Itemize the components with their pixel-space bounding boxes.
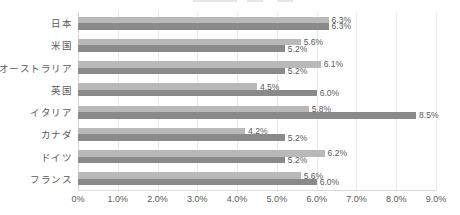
series-dark-gray-bar [78,157,285,164]
category-label: 日本 [0,12,72,34]
category-label: ドイツ [0,146,72,168]
legend-swatch-fragment [247,0,263,2]
gridline [436,12,437,190]
legend-swatch-fragment [277,0,293,2]
category-label: オーストラリア [0,57,72,79]
bar-row: 5.8%8.5% [78,101,436,123]
bar-row: 5.6%6.0% [78,168,436,190]
category-axis: 日本米国オーストラリア英国イタリアカナダドイツフランス [0,12,72,190]
data-label: 6.1% [324,61,343,68]
data-label: 6.3% [332,23,351,30]
data-label: 6.0% [320,90,339,97]
category-label: 英国 [0,79,72,101]
x-tick-label: 8.0% [386,194,407,204]
value-axis: 0%1.0%2.0%3.0%4.0%5.0%6.0%7.0%8.0%9.0% [0,194,460,210]
bar-row: 5.6%5.2% [78,34,436,56]
x-tick-label: 6.0% [306,194,327,204]
bar-row: 6.1%5.2% [78,57,436,79]
data-label: 6.0% [320,179,339,186]
category-label: フランス [0,168,72,190]
series-dark-gray-bar [78,112,416,119]
data-label: 5.2% [288,134,307,141]
x-tick-label: 0% [71,194,84,204]
plot-area: 6.3%6.3%5.6%5.2%6.1%5.2%4.5%6.0%5.8%8.5%… [78,12,436,191]
x-tick-label: 9.0% [426,194,447,204]
data-label: 5.2% [288,68,307,75]
category-label: 米国 [0,34,72,56]
x-tick-label: 2.0% [147,194,168,204]
data-label: 5.2% [288,45,307,52]
category-label: イタリア [0,101,72,123]
series-dark-gray-bar [78,68,285,75]
data-label: 8.5% [419,112,438,119]
bar-row: 4.5%6.0% [78,79,436,101]
x-tick-label: 1.0% [108,194,129,204]
grouped-bar-chart: 日本米国オーストラリア英国イタリアカナダドイツフランス 6.3%6.3%5.6%… [0,0,460,215]
bar-row: 6.2%5.2% [78,146,436,168]
series-dark-gray-bar [78,23,329,30]
x-tick-label: 5.0% [267,194,288,204]
series-dark-gray-bar [78,90,317,97]
bar-row: 6.3%6.3% [78,12,436,34]
x-tick-label: 3.0% [187,194,208,204]
category-label: カナダ [0,123,72,145]
data-label: 6.2% [328,150,347,157]
series-dark-gray-bar [78,45,285,52]
legend-swatch-fragment [193,0,237,2]
x-tick-label: 4.0% [227,194,248,204]
series-dark-gray-bar [78,134,285,141]
x-tick-label: 7.0% [346,194,367,204]
bar-row: 4.2%5.2% [78,123,436,145]
legend-cutoff [0,0,460,4]
data-label: 5.2% [288,157,307,164]
series-dark-gray-bar [78,179,317,186]
